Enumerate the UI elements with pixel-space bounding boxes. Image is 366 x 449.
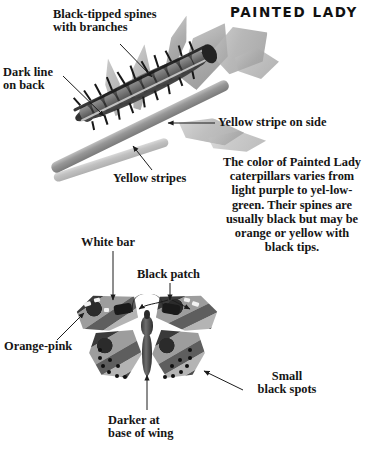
label-line-2: base of wing <box>108 427 173 440</box>
label-line-2: with branches <box>53 21 157 34</box>
label-line-1: Small <box>240 370 334 383</box>
label-line-1: Yellow stripe on side <box>218 116 326 129</box>
label-darker-at-base-of-wing: Darker at base of wing <box>108 414 173 441</box>
label-white-bar: White bar <box>81 236 135 249</box>
butterfly-illustration <box>74 286 220 408</box>
label-dark-line-on-back: Dark line on back <box>3 66 53 93</box>
description-paragraph: The color of Painted Lady caterpillars v… <box>222 155 362 254</box>
label-line-1: Black patch <box>137 268 200 281</box>
label-line-2: black spots <box>240 383 334 396</box>
label-yellow-stripe-on-side: Yellow stripe on side <box>218 116 326 129</box>
label-yellow-stripes: Yellow stripes <box>113 172 186 185</box>
label-line-1: Yellow stripes <box>113 172 186 185</box>
label-line-1: Black-tipped spines <box>53 8 157 21</box>
label-line-1: Orange-pink <box>4 340 72 353</box>
label-small-black-spots: Small black spots <box>240 370 334 397</box>
label-line-1: Dark line <box>3 66 53 79</box>
field-guide-page: PAINTED LADY <box>0 0 366 449</box>
label-line-1: White bar <box>81 236 135 249</box>
label-line-1: Darker at <box>108 414 173 427</box>
label-black-patch: Black patch <box>137 268 200 281</box>
label-orange-pink: Orange-pink <box>4 340 72 353</box>
label-line-2: on back <box>3 79 53 92</box>
label-black-tipped-spines: Black-tipped spines with branches <box>53 8 157 35</box>
